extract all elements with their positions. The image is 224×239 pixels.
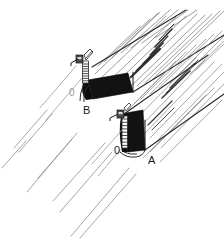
line-drawing bbox=[0, 0, 224, 239]
label-zero-mark-b: 0 bbox=[69, 88, 75, 98]
illustration-canvas: A B 0 0 bbox=[0, 0, 224, 239]
tick-scale-a bbox=[122, 116, 128, 148]
marking-gauge-b bbox=[71, 49, 93, 66]
label-piece-b: B bbox=[83, 105, 90, 116]
label-zero-mark-a: 0 bbox=[114, 145, 120, 156]
end-grain-face-b bbox=[82, 73, 133, 100]
tick-scale-b bbox=[83, 61, 89, 83]
label-piece-a: A bbox=[148, 155, 155, 166]
grain-lines-lower-left bbox=[2, 110, 136, 238]
